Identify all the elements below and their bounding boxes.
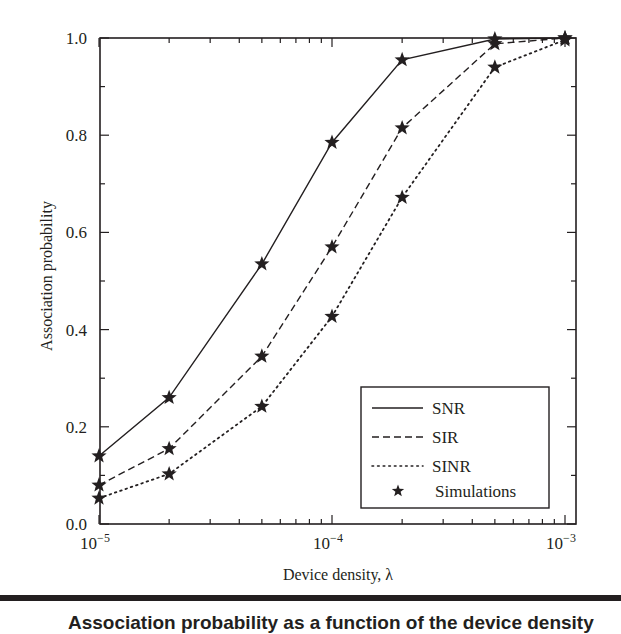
star-marker-icon: [91, 490, 106, 504]
legend-label: SNR: [432, 399, 466, 418]
legend-label: SIR: [432, 428, 459, 447]
star-marker-icon: [254, 348, 269, 362]
x-tick-labels: 10−510−410−3: [80, 531, 576, 553]
legend-label: Simulations: [435, 482, 516, 501]
figure-caption: Association probability as a function of…: [68, 612, 594, 634]
legend: SNRSIRSINRSimulations: [361, 387, 549, 508]
star-marker-icon: [254, 256, 269, 270]
star-marker-icon: [162, 441, 177, 455]
star-marker-icon: [91, 448, 106, 462]
chart: 0.00.20.40.60.81.0 10−510−410−3 Associat…: [0, 0, 621, 590]
y-tick-label: 0.6: [66, 223, 87, 242]
y-axis-label: Association probability: [38, 201, 56, 351]
star-marker-icon: [91, 477, 106, 491]
star-marker-icon: [487, 59, 502, 73]
legend-label: SINR: [432, 457, 471, 476]
x-tick-label: 10−4: [313, 531, 343, 553]
x-tick-label: 10−5: [80, 531, 110, 553]
star-marker-icon: [324, 239, 339, 253]
y-tick-label: 0.8: [66, 126, 87, 145]
star-marker-icon: [324, 308, 339, 322]
caption-separator: [0, 595, 621, 601]
x-tick-label: 10−3: [546, 531, 576, 553]
y-tick-label: 0.4: [66, 321, 88, 340]
y-tick-label: 1.0: [66, 29, 87, 48]
x-axis-label: Device density, λ: [283, 566, 393, 584]
star-marker-icon: [395, 120, 410, 134]
y-tick-label: 0.0: [66, 515, 87, 534]
star-marker-icon: [395, 52, 410, 66]
y-tick-label: 0.2: [66, 418, 87, 437]
star-marker-icon: [162, 466, 177, 480]
star-marker-icon: [395, 189, 410, 203]
y-tick-labels: 0.00.20.40.60.81.0: [66, 29, 88, 534]
